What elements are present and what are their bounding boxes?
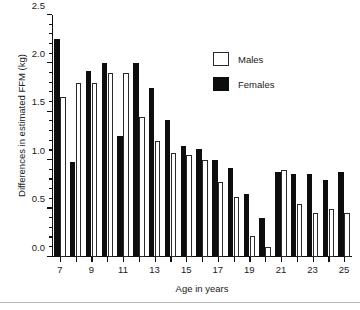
bar-males [60, 97, 65, 257]
bar-males [186, 155, 191, 257]
x-tick-label: 19 [244, 264, 255, 275]
y-tick-major [47, 159, 52, 160]
y-tick-minor [49, 178, 52, 179]
bar-females [307, 174, 312, 257]
y-tick-minor [49, 120, 52, 121]
bar-chart-figure: Differences in estimated FFM (kg) 0.00.5… [0, 0, 360, 310]
x-tick-label: 13 [149, 264, 160, 275]
bar-females [86, 71, 91, 257]
y-tick-minor [49, 91, 52, 92]
y-tick-minor [49, 43, 52, 44]
y-tick-label: 2.0 [32, 47, 45, 58]
legend-swatch-females-icon [213, 77, 229, 91]
y-tick-major [47, 111, 52, 112]
bar-females [338, 172, 343, 257]
x-tick-label: 17 [212, 264, 223, 275]
x-tick [139, 257, 140, 262]
y-tick-minor [49, 169, 52, 170]
y-tick-major [47, 62, 52, 63]
bar-females [228, 168, 233, 257]
x-tick [297, 257, 298, 262]
y-tick-minor [49, 72, 52, 73]
x-tick [249, 257, 250, 262]
x-tick [344, 257, 345, 262]
y-tick-minor [49, 227, 52, 228]
x-tick-label: 15 [181, 264, 192, 275]
x-tick [123, 257, 124, 262]
x-tick-label: 25 [339, 264, 350, 275]
bar-males [250, 236, 255, 257]
plot-area: 0.00.51.01.52.02.5 791113151719212325 [52, 15, 352, 257]
y-tick-major [47, 207, 52, 208]
bar-females [323, 180, 328, 257]
y-tick-label: 0.5 [32, 193, 45, 204]
x-tick [202, 257, 203, 262]
x-axis-title: Age in years [52, 283, 352, 294]
bar-males [344, 213, 349, 257]
bar-females [181, 146, 186, 257]
bar-females [275, 172, 280, 257]
x-tick [155, 257, 156, 262]
x-tick [76, 257, 77, 262]
bar-females [133, 63, 138, 257]
y-tick-label: 1.0 [32, 144, 45, 155]
x-tick [328, 257, 329, 262]
bar-males [234, 197, 239, 257]
y-tick-minor [49, 130, 52, 131]
x-tick [313, 257, 314, 262]
bar-females [212, 160, 217, 257]
x-tick [234, 257, 235, 262]
x-tick [107, 257, 108, 262]
y-tick-minor [49, 140, 52, 141]
y-tick-major [47, 256, 52, 257]
bar-females [259, 218, 264, 257]
bar-males [155, 141, 160, 257]
x-tick [60, 257, 61, 262]
y-tick-minor [49, 82, 52, 83]
bar-females [244, 194, 249, 257]
y-tick-minor [49, 236, 52, 237]
bar-males [76, 83, 81, 257]
y-tick-label: 2.5 [32, 0, 45, 10]
y-tick-minor [49, 24, 52, 25]
bar-males [281, 170, 286, 257]
legend-label-females: Females [238, 79, 274, 90]
x-tick-label: 7 [57, 264, 62, 275]
bar-females [196, 149, 201, 257]
bar-females [291, 174, 296, 257]
legend-label-males: Males [238, 54, 263, 65]
x-tick [281, 257, 282, 262]
y-axis-title: Differences in estimated FFM (kg) [16, 11, 27, 241]
x-tick [186, 257, 187, 262]
y-axis-line [52, 15, 53, 257]
legend-item-females: Females [213, 77, 274, 91]
bar-males [218, 182, 223, 258]
legend-item-males: Males [213, 52, 274, 66]
y-tick-label: 0.0 [32, 241, 45, 252]
y-tick-major [47, 14, 52, 15]
bar-males [171, 153, 176, 257]
y-tick-minor [49, 149, 52, 150]
y-tick-minor [49, 198, 52, 199]
bar-males [123, 73, 128, 257]
y-tick-minor [49, 101, 52, 102]
x-tick-label: 11 [118, 264, 128, 275]
bar-males [139, 117, 144, 257]
y-tick-minor [49, 33, 52, 34]
y-tick-label: 1.5 [32, 96, 45, 107]
bar-females [70, 162, 75, 257]
bar-males [202, 160, 207, 257]
legend-swatch-males-icon [213, 52, 229, 66]
x-tick-label: 9 [89, 264, 94, 275]
x-tick-label: 21 [276, 264, 287, 275]
bar-females [102, 63, 107, 257]
x-tick-label: 23 [307, 264, 318, 275]
bar-females [54, 39, 59, 257]
bar-males [265, 247, 270, 257]
y-tick-minor [49, 217, 52, 218]
x-tick [218, 257, 219, 262]
chart-legend: Males Females [213, 52, 274, 102]
y-tick-minor [49, 53, 52, 54]
bar-males [297, 204, 302, 257]
bottom-divider [0, 302, 360, 303]
